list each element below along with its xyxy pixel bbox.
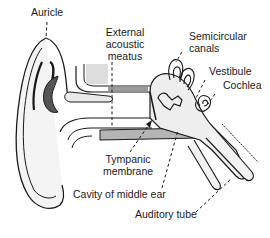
leader-auricle: [46, 22, 47, 38]
label-auditory-tube: Auditory tube: [135, 208, 197, 220]
label-semicircular-canals-line2: canals: [189, 42, 247, 54]
label-auricle: Auricle: [31, 6, 63, 18]
ear-anatomy-diagram: Auricle External acoustic meatus Semicir…: [0, 0, 270, 238]
label-vestibule: Vestibule: [209, 65, 252, 77]
label-cavity-of-middle-ear: Cavity of middle ear: [73, 188, 166, 200]
leader-cochlea: [208, 94, 215, 104]
label-tympanic-membrane: Tympanic membrane: [96, 153, 160, 177]
label-tympanic-membrane-line1: Tympanic: [96, 153, 160, 165]
label-tympanic-membrane-line2: membrane: [96, 165, 160, 177]
label-semicircular-canals: Semicircular canals: [189, 30, 247, 54]
label-external-acoustic-meatus-line2: acoustic: [93, 38, 157, 50]
label-external-acoustic-meatus-line3: meatus: [93, 50, 157, 62]
label-semicircular-canals-line1: Semicircular: [189, 30, 247, 42]
label-external-acoustic-meatus-line1: External: [93, 26, 157, 38]
label-cochlea: Cochlea: [223, 79, 262, 91]
label-external-acoustic-meatus: External acoustic meatus: [93, 26, 157, 62]
